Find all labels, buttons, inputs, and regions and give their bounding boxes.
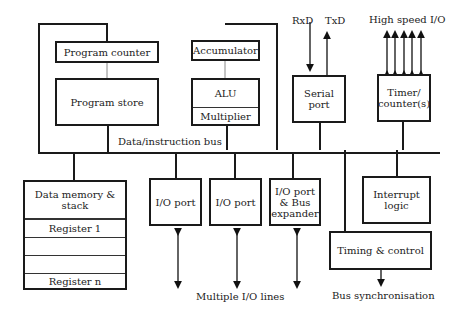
io-port-2-block: I/O port — [209, 178, 262, 226]
serial-port-block: Serial port — [292, 75, 346, 123]
timing-control-block: Timing & control — [329, 231, 432, 270]
high-speed-io-label: High speed I/O — [369, 14, 445, 25]
timer-counter-block: Timer/ counter(s) — [377, 74, 431, 122]
data-memory-label: Data memory & stack — [25, 182, 125, 218]
register-1-label: Register 1 — [25, 218, 125, 237]
txd-label: TxD — [325, 15, 345, 26]
bus-sync-label: Bus synchronisation — [332, 290, 435, 301]
data-memory-block: Data memory & stack Register 1 Register … — [23, 180, 127, 290]
io-port-expander-block: I/O port & Bus expander — [269, 178, 321, 226]
multiple-io-lines-label: Multiple I/O lines — [196, 291, 284, 302]
interrupt-logic-block: Interrupt logic — [362, 176, 431, 224]
multiplier-label: Multiplier — [193, 107, 258, 124]
program-store-block: Program store — [55, 78, 159, 126]
alu-label: ALU — [193, 80, 258, 107]
register-blank-1 — [25, 237, 125, 255]
alu-block: ALU Multiplier — [191, 78, 260, 126]
register-blank-2 — [25, 255, 125, 273]
register-n-label: Register n — [25, 273, 125, 288]
accumulator-block: Accumulator — [191, 40, 260, 61]
bus-label: Data/instruction bus — [118, 136, 222, 147]
program-counter-block: Program counter — [55, 41, 159, 63]
io-port-1-block: I/O port — [149, 178, 202, 226]
rxd-label: RxD — [292, 15, 313, 26]
